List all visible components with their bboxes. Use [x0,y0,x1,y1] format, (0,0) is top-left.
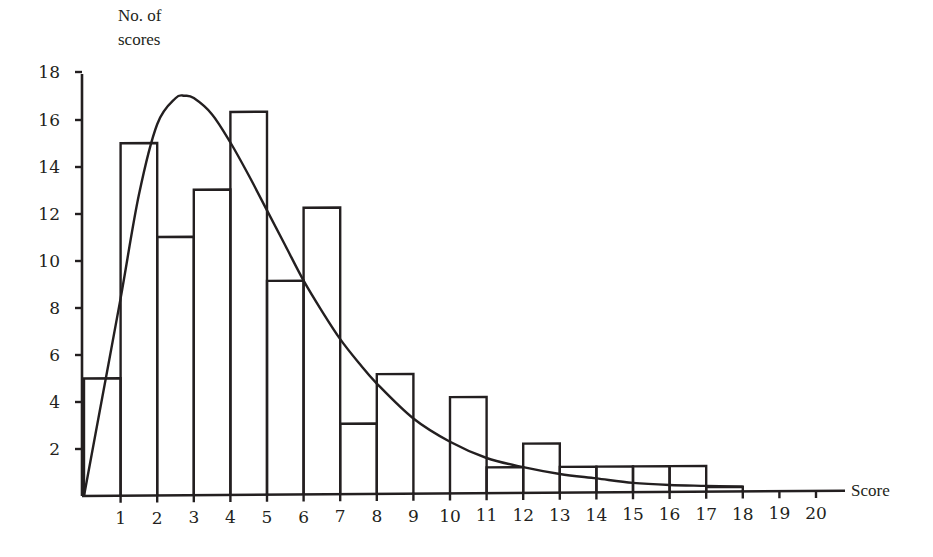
histogram-bars [84,112,743,496]
x-tick-label: 1 [115,508,126,528]
y-axis-label: No. of scores [118,4,161,52]
x-tick-label: 5 [262,507,273,527]
x-tick-label: 14 [586,505,608,525]
histogram-bar [633,466,670,492]
x-tick-label: 10 [439,506,461,526]
y-tick-label: 4 [49,392,60,412]
x-tick-label: 17 [695,504,717,524]
x-tick-label: 12 [512,505,534,525]
x-tick-label: 8 [371,506,382,526]
histogram-bar [267,281,304,495]
y-tick-label: 12 [38,204,60,224]
x-tick-label: 3 [188,507,199,527]
axes [82,74,845,496]
x-tick-label: 7 [335,506,346,526]
histogram-chart: 1234567891011121314151617181920 24681012… [0,0,933,557]
x-tick-label: 16 [659,504,681,524]
histogram-bar [230,112,267,495]
chart-canvas: 1234567891011121314151617181920 24681012… [0,0,933,557]
x-axis-line [82,491,845,496]
y-tick-label: 10 [38,251,60,271]
x-tick-label: 9 [408,506,419,526]
histogram-bar [340,424,377,495]
y-tick-label: 8 [49,298,60,318]
y-tick-label: 16 [38,110,60,130]
histogram-bar [194,190,231,496]
x-tick-label: 15 [622,504,644,524]
x-tick-label: 4 [225,507,236,527]
y-tick-label: 2 [49,439,60,459]
x-tick-label: 13 [549,505,571,525]
x-axis-label: Score [851,481,890,501]
histogram-bar [377,374,414,494]
histogram-bar [157,237,194,496]
x-tick-label: 19 [769,503,791,523]
y-axis-ticks: 24681012141618 [38,62,82,459]
histogram-bar [670,466,707,492]
x-tick-label: 11 [476,505,498,525]
histogram-bar [487,467,524,493]
histogram-bar [560,467,597,493]
x-tick-label: 20 [805,503,827,523]
x-tick-label: 2 [152,508,163,528]
histogram-bar [304,208,341,495]
x-tick-label: 6 [298,507,309,527]
y-axis-label-line-1: No. of [118,4,161,28]
y-tick-label: 6 [49,345,60,365]
y-axis-label-line-2: scores [118,28,161,52]
y-tick-label: 18 [38,62,60,82]
x-tick-label: 18 [732,504,754,524]
y-tick-label: 14 [38,157,60,177]
